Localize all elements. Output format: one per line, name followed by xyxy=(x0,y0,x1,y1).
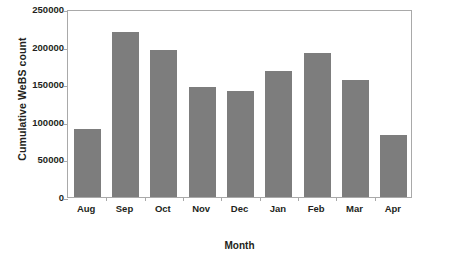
y-axis-tick-label: 150000 xyxy=(30,80,64,90)
y-axis-tick xyxy=(64,199,68,200)
x-axis-tick-label: Apr xyxy=(374,203,412,215)
bar-chart: Cumulative WeBS count 050000100000150000… xyxy=(0,0,450,265)
bar-sep xyxy=(112,32,139,197)
y-axis-tick-label: 100000 xyxy=(30,118,64,128)
x-axis-tick xyxy=(106,197,107,201)
bar-jan xyxy=(265,71,292,197)
x-axis-tick-labels: AugSepOctNovDecJanFebMarApr xyxy=(67,203,412,219)
x-axis-tick-label: Nov xyxy=(182,203,220,215)
x-axis-tick xyxy=(260,197,261,201)
y-axis-title: Cumulative WeBS count xyxy=(14,0,30,198)
x-axis-tick-label: Sep xyxy=(105,203,143,215)
bar-nov xyxy=(189,87,216,197)
x-axis-tick xyxy=(336,197,337,201)
bar-mar xyxy=(342,80,369,197)
x-axis-tick-label: Dec xyxy=(220,203,258,215)
bar-feb xyxy=(304,53,331,197)
x-axis-tick xyxy=(298,197,299,201)
x-axis-tick-label: Mar xyxy=(335,203,373,215)
y-axis-tick-labels: 050000100000150000200000250000 xyxy=(30,0,64,265)
x-axis-tick-label: Aug xyxy=(67,203,105,215)
plot-frame xyxy=(67,10,412,198)
y-axis-tick xyxy=(64,49,68,50)
x-axis-tick xyxy=(221,197,222,201)
bar-apr xyxy=(380,135,407,197)
y-axis-tick xyxy=(64,11,68,12)
y-axis-tick-label: 50000 xyxy=(30,155,64,165)
bar-oct xyxy=(150,50,177,197)
x-axis-tick xyxy=(375,197,376,201)
y-axis-tick-label: 0 xyxy=(30,193,64,203)
y-axis-tick-label: 200000 xyxy=(30,43,64,53)
bar-aug xyxy=(74,129,101,197)
x-axis-title: Month xyxy=(67,240,412,251)
x-axis-tick-label: Oct xyxy=(144,203,182,215)
y-axis-tick-label: 250000 xyxy=(30,5,64,15)
x-axis-tick-label: Feb xyxy=(297,203,335,215)
bar-dec xyxy=(227,91,254,197)
y-axis-tick xyxy=(64,161,68,162)
x-axis-tick xyxy=(145,197,146,201)
plot-area xyxy=(68,11,411,197)
y-axis-tick xyxy=(64,124,68,125)
x-axis-tick xyxy=(183,197,184,201)
x-axis-tick-label: Jan xyxy=(259,203,297,215)
y-axis-tick xyxy=(64,86,68,87)
